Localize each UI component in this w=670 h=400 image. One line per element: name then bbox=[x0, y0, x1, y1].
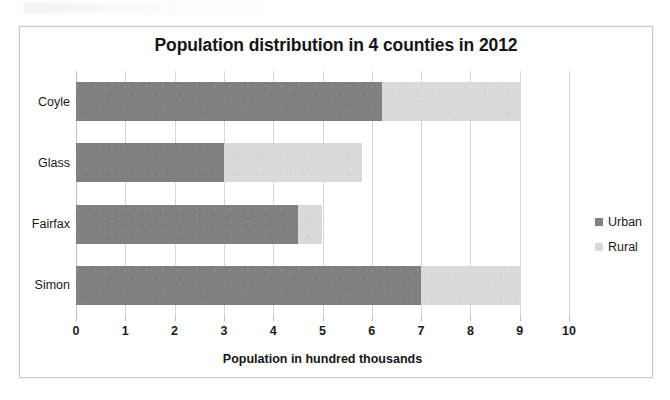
x-tick-label: 1 bbox=[122, 324, 129, 338]
x-tick-label: 9 bbox=[516, 324, 523, 338]
tick-mark-x-1 bbox=[125, 316, 126, 321]
bar-segment-rural[interactable] bbox=[421, 266, 520, 305]
category-label: Fairfax bbox=[32, 217, 70, 231]
category-label: Simon bbox=[35, 278, 70, 292]
category-label: Glass bbox=[38, 156, 70, 170]
bar-segment-urban[interactable] bbox=[76, 266, 421, 305]
legend-label-rural: Rural bbox=[608, 240, 638, 254]
paper-grain bbox=[76, 205, 298, 244]
legend-label-urban: Urban bbox=[608, 215, 642, 229]
x-tick-label: 3 bbox=[220, 324, 227, 338]
legend-item-urban[interactable]: Urban bbox=[595, 215, 653, 229]
paper-grain bbox=[382, 82, 520, 121]
tick-mark-x-4 bbox=[273, 316, 274, 321]
x-tick-label: 4 bbox=[270, 324, 277, 338]
legend-swatch-urban-icon bbox=[595, 218, 603, 226]
paper-grain bbox=[76, 143, 224, 182]
tick-mark-x-8 bbox=[470, 316, 471, 321]
bar-row[interactable] bbox=[76, 266, 569, 305]
paper-grain bbox=[76, 266, 421, 305]
x-axis-title: Population in hundred thousands bbox=[76, 352, 569, 366]
bar-segment-rural[interactable] bbox=[382, 82, 520, 121]
bar-row[interactable] bbox=[76, 82, 569, 121]
paper-grain bbox=[298, 205, 323, 244]
tick-mark-x-7 bbox=[421, 316, 422, 321]
x-tick-label: 2 bbox=[171, 324, 178, 338]
chart-container: Population distribution in 4 counties in… bbox=[19, 26, 653, 378]
legend-item-rural[interactable]: Rural bbox=[595, 240, 653, 254]
x-tick-label: 10 bbox=[562, 324, 576, 338]
category-axis-labels: CoyleGlassFairfaxSimon bbox=[20, 71, 76, 316]
tick-mark-x-10 bbox=[569, 316, 570, 321]
tick-mark-x-3 bbox=[224, 316, 225, 321]
x-tick-label: 6 bbox=[368, 324, 375, 338]
bar-segment-urban[interactable] bbox=[76, 205, 298, 244]
bar-segment-rural[interactable] bbox=[224, 143, 362, 182]
tick-mark-x-0 bbox=[76, 316, 77, 321]
paper-smudge bbox=[24, 2, 264, 14]
paper-grain bbox=[421, 266, 520, 305]
bar-segment-rural[interactable] bbox=[298, 205, 323, 244]
tick-mark-x-9 bbox=[520, 316, 521, 321]
chart-title: Population distribution in 4 counties in… bbox=[20, 35, 652, 56]
x-tick-label: 0 bbox=[73, 324, 80, 338]
plot-area: 012345678910 bbox=[76, 71, 569, 316]
legend-swatch-rural-icon bbox=[595, 243, 603, 251]
tick-mark-x-5 bbox=[323, 316, 324, 321]
paper-grain bbox=[76, 82, 382, 121]
category-label: Coyle bbox=[38, 95, 70, 109]
gridline-x-10 bbox=[569, 71, 570, 316]
x-tick-label: 8 bbox=[467, 324, 474, 338]
bar-segment-urban[interactable] bbox=[76, 143, 224, 182]
x-tick-label: 5 bbox=[319, 324, 326, 338]
chart-legend: Urban Rural bbox=[595, 215, 653, 265]
x-tick-label: 7 bbox=[418, 324, 425, 338]
bar-row[interactable] bbox=[76, 205, 569, 244]
bar-row[interactable] bbox=[76, 143, 569, 182]
paper-grain bbox=[224, 143, 362, 182]
tick-mark-x-6 bbox=[372, 316, 373, 321]
bar-segment-urban[interactable] bbox=[76, 82, 382, 121]
tick-mark-x-2 bbox=[175, 316, 176, 321]
